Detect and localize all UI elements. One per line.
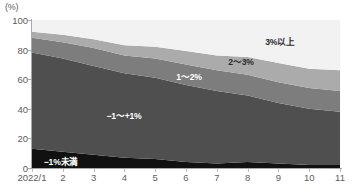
y-tick-mark [28, 138, 31, 139]
y-axis-tick-40: 40 [2, 103, 28, 114]
x-axis-tick-1: 2 [60, 172, 65, 183]
x-axis-tick-3: 4 [122, 172, 127, 183]
x-axis-tick-labels: 2022/1234567891011 [0, 170, 356, 189]
y-tick-mark [28, 50, 31, 51]
x-axis-tick-6: 7 [214, 172, 219, 183]
series-label-2: 1～2% [176, 70, 201, 82]
x-axis-tick-8: 9 [276, 172, 281, 183]
x-axis-tick-4: 5 [153, 172, 158, 183]
x-tick-mark [124, 169, 125, 172]
y-tick-mark [28, 168, 31, 169]
x-tick-mark [155, 169, 156, 172]
x-tick-mark [340, 169, 341, 172]
y-tick-mark [28, 109, 31, 110]
series-label-4: −1%未満 [44, 155, 78, 167]
x-axis-tick-0: 2022/1 [17, 172, 46, 183]
y-tick-mark [28, 79, 31, 80]
x-tick-mark [186, 169, 187, 172]
series-label-3: −1～+1% [106, 109, 141, 121]
y-axis-tick-20: 20 [2, 133, 28, 144]
x-tick-mark [63, 169, 64, 172]
x-tick-mark [32, 169, 33, 172]
series-label-1: 2～3% [228, 55, 253, 67]
x-tick-mark [94, 169, 95, 172]
x-tick-mark [217, 169, 218, 172]
stacked-area-chart: (%) 020406080100 2022/1234567891011 3%以上… [0, 0, 356, 189]
x-axis-tick-5: 6 [183, 172, 188, 183]
x-axis-tick-10: 11 [335, 172, 345, 183]
y-tick-mark [28, 20, 31, 21]
y-axis-tick-80: 80 [2, 44, 28, 55]
y-axis-tick-labels: 020406080100 [0, 0, 28, 189]
x-axis-tick-2: 3 [91, 172, 96, 183]
x-tick-mark [309, 169, 310, 172]
x-tick-mark [278, 169, 279, 172]
y-axis-tick-100: 100 [2, 15, 28, 26]
series-label-0: 3%以上 [265, 35, 295, 47]
x-tick-mark [248, 169, 249, 172]
y-axis-tick-60: 60 [2, 74, 28, 85]
x-axis-tick-7: 8 [245, 172, 250, 183]
x-axis-tick-9: 10 [304, 172, 315, 183]
